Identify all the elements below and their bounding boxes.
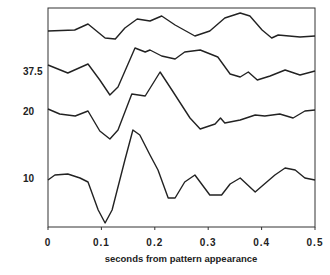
- plot-frame: [48, 8, 315, 227]
- x-tick-label: 0.1: [93, 237, 110, 248]
- trace-line-37.5: [48, 48, 315, 95]
- trace-line-10: [48, 130, 315, 223]
- chart: 00.10.20.30.40.5 37.52010 seconds from p…: [0, 0, 330, 275]
- traces: [48, 13, 315, 223]
- trace-label: 10: [23, 173, 35, 184]
- x-tick-label: 0.2: [146, 237, 163, 248]
- trace-label: 37.5: [23, 66, 43, 77]
- x-axis-label: seconds from pattern appearance: [105, 253, 258, 264]
- x-tick-label: 0.4: [253, 237, 270, 248]
- x-ticks: 00.10.20.30.40.5: [45, 227, 324, 248]
- trace-labels: 37.52010: [23, 66, 43, 184]
- trace-line-20: [48, 72, 315, 139]
- trace-line-top: [48, 13, 315, 39]
- x-tick-label: 0.3: [200, 237, 217, 248]
- x-tick-label: 0: [45, 237, 52, 248]
- trace-label: 20: [23, 106, 35, 117]
- x-tick-label: 0.5: [307, 237, 324, 248]
